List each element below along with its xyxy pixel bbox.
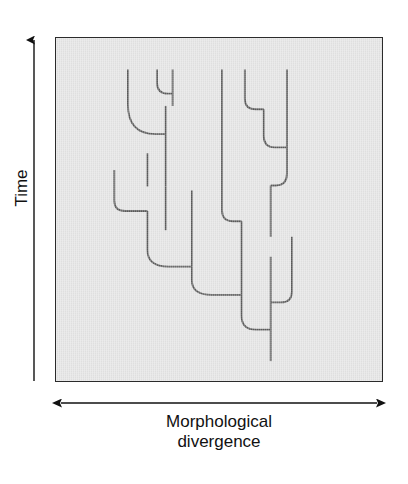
branch-a2 — [157, 69, 173, 93]
x-axis-label-line2: divergence — [55, 432, 383, 452]
branch-b4 — [264, 109, 287, 147]
branch-a1 — [128, 69, 166, 134]
branch-c1 — [114, 170, 147, 211]
x-axis-label-line1: Morphological — [55, 412, 383, 432]
x-axis-label: Morphological divergence — [55, 412, 383, 452]
phylogeny-tree — [56, 38, 382, 381]
branch-b3 — [271, 69, 287, 185]
y-axis-label-text: Time — [12, 169, 32, 206]
branch-b2 — [245, 69, 264, 109]
plot-panel — [55, 37, 383, 382]
branch-e2 — [242, 295, 271, 330]
branch-e3 — [271, 237, 292, 303]
figure-container: Time — [0, 0, 408, 484]
y-axis-label: Time — [0, 178, 44, 198]
branch-c3 — [147, 211, 191, 267]
branch-e1 — [192, 267, 242, 295]
branch-b1 — [222, 69, 242, 221]
